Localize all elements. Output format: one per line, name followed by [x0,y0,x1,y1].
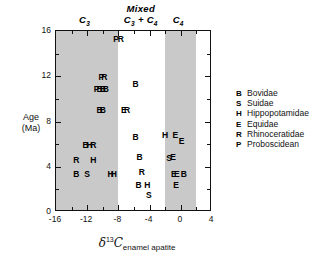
x-tick [118,31,119,36]
x-tick [72,207,73,210]
data-point-h: H [90,156,96,165]
legend-label: Bovidae [247,88,278,98]
legend-key-p: P [236,140,247,149]
y-tick-label: 0 [31,206,51,216]
data-point-r: R [124,106,130,115]
zone-header-mixed: MixedC3 + C4 [124,3,158,27]
data-point-b: B [73,169,79,178]
legend-item-proboscidean: PProboscidean [236,139,309,149]
legend-label: Hippopotamidae [247,108,309,118]
y-tick [56,167,61,168]
data-point-e: E [172,131,178,140]
y-tick [207,54,210,55]
x-tick [134,31,135,34]
data-point-e: E [179,136,185,145]
x-tick [72,31,73,34]
data-point-b: B [181,169,187,178]
data-point-e: E [174,169,180,178]
x-tick [165,31,166,34]
y-tick [56,54,59,55]
x-tick [103,207,104,210]
data-point-s: S [146,191,152,200]
zone-header-c3-label: C3 [79,14,90,25]
data-point-e: E [170,152,176,161]
data-point-r: R [73,156,79,165]
data-point-b: B [136,152,142,161]
zone-header-c4-label: C4 [173,14,184,25]
x-tick-label: -12 [80,214,92,224]
y-tick [56,76,61,77]
x-tick [134,207,135,210]
x-tick [103,31,104,34]
y-tick [205,167,210,168]
legend-item-hippopotamidae: HHippopotamidae [236,108,309,118]
legend-item-rhinoceratidae: RRhinoceratidae [236,129,309,139]
legend-key-h: H [236,109,247,118]
x-tick [150,205,151,210]
carbon-element-symbol: C [114,236,123,250]
x-tick [196,207,197,210]
legend-label: Suidae [247,98,273,108]
x-tick [118,205,119,210]
data-point-r: R [101,73,107,82]
legend: BBovidaeSSuidaeHHippopotamidaeEEquidaeRR… [236,88,309,149]
y-tick [56,189,59,190]
data-point-b: B [103,84,109,93]
data-point-b: B [132,80,138,89]
x-tick [181,31,182,36]
figure-container: C3MixedC3 + C4C4 BSRHBHRBBPBBBPRPRHHSBHR… [0,0,330,261]
y-axis-title: Age (Ma) [10,112,52,134]
x-tick-label: 0 [177,214,182,224]
x-tick [87,205,88,210]
data-point-b: B [132,133,138,142]
data-point-h: H [144,181,150,190]
x-tick [181,205,182,210]
y-tick [56,144,59,145]
x-tick [150,31,151,36]
data-point-h: H [111,169,117,178]
y-tick [56,99,59,100]
legend-item-bovidae: BBovidae [236,88,309,98]
data-point-b: B [136,181,142,190]
y-tick-label: 16 [31,25,51,35]
zone-header-c4: C4 [173,14,184,27]
y-tick-label: 12 [31,70,51,80]
y-tick [207,189,210,190]
y-tick [207,99,210,100]
x-tick-label: 4 [209,214,214,224]
y-tick-label: 4 [31,161,51,171]
x-axis-title: δ13Cenamel apatite [62,236,212,252]
data-point-b: B [100,106,106,115]
legend-item-equidae: EEquidae [236,119,309,129]
legend-key-s: S [236,99,247,108]
legend-item-suidae: SSuidae [236,98,309,108]
x-tick [196,31,197,34]
data-point-r: R [139,168,145,177]
legend-label: Proboscidean [247,139,299,149]
legend-key-r: R [236,130,247,139]
x-tick-label: -4 [145,214,153,224]
x-tick [165,207,166,210]
data-point-e: E [173,181,179,190]
legend-label: Rhinoceratidae [247,129,304,139]
y-tick [56,122,61,123]
y-axis-title-line2: (Ma) [10,123,52,134]
band-c4 [165,31,196,210]
zone-header-c3: C3 [79,14,90,27]
y-tick [205,76,210,77]
zone-header-mixed-line2: C3 + C4 [124,14,158,25]
isotope-mass-superscript: 13 [106,236,114,243]
y-tick [207,144,210,145]
data-point-s: S [84,169,90,178]
x-tick-label: -8 [114,214,122,224]
x-tick [87,31,88,36]
zone-header-mixed-line1: Mixed [127,3,155,14]
legend-key-b: B [236,89,247,98]
legend-label: Equidae [247,119,278,129]
legend-key-e: E [236,120,247,129]
band-c3 [56,31,118,210]
plot-area: BSRHBHRBBPBBBPRPRHHSBHRBBERBEEEBSEHEE [55,30,211,211]
enamel-apatite-subscript: enamel apatite [123,243,175,252]
data-point-r: R [90,141,96,150]
delta-symbol: δ [99,236,106,250]
